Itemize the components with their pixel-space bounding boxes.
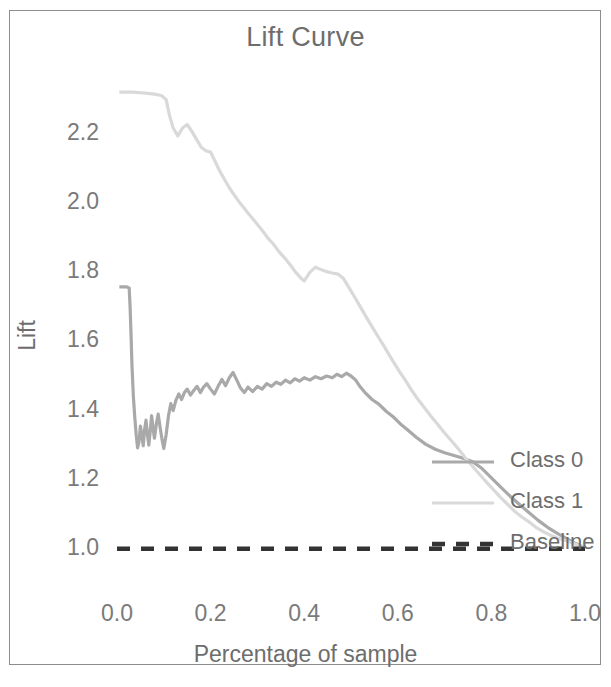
- y-tick-label: 2.0: [29, 188, 99, 215]
- x-tick-label: 0.0: [82, 600, 152, 627]
- x-tick-label: 0.6: [363, 600, 433, 627]
- x-tick-label: 0.4: [269, 600, 339, 627]
- legend-label-class-0: Class 0: [510, 447, 583, 473]
- x-tick-label: 0.8: [456, 600, 526, 627]
- x-tick-label: 1.0: [550, 600, 611, 627]
- y-tick-label: 1.8: [29, 257, 99, 284]
- legend-label-class-1: Class 1: [510, 488, 583, 514]
- y-axis-title: Lift: [14, 296, 41, 376]
- y-tick-label: 1.4: [29, 396, 99, 423]
- series-line-class-1: [119, 92, 585, 548]
- x-axis-title: Percentage of sample: [0, 641, 611, 668]
- y-tick-label: 2.2: [29, 119, 99, 146]
- legend-label-baseline: Baseline: [510, 529, 594, 555]
- y-tick-label: 1.0: [29, 534, 99, 561]
- x-tick-label: 0.2: [176, 600, 246, 627]
- y-tick-label: 1.2: [29, 465, 99, 492]
- lift-curve-figure: Lift Curve 1.01.21.41.61.82.02.2 0.00.20…: [0, 0, 611, 687]
